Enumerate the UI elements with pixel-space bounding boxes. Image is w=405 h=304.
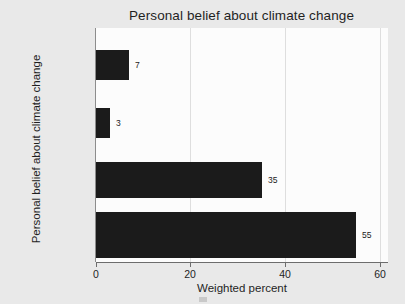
x-tick-mark-60: [380, 262, 381, 267]
bar-value-not-now: 3: [116, 119, 121, 128]
bar-dk-na: [96, 50, 129, 80]
bar-not-now: [96, 108, 110, 138]
bar-now-natural: [96, 162, 262, 198]
bar-now-human: [96, 212, 356, 258]
y-axis-title: Personal belief about climate change: [30, 29, 42, 269]
bar-value-now-natural: 35: [268, 176, 277, 185]
bar-value-dk-na: 7: [135, 61, 140, 70]
scan-artifact: [199, 297, 207, 302]
bar-value-now-human: 55: [362, 231, 371, 240]
chart-title: Personal belief about climate change: [95, 8, 388, 23]
x-tick-mark-20: [190, 262, 191, 267]
y-axis-line: [95, 28, 96, 262]
x-tick-label-60: 60: [374, 268, 386, 280]
x-tick-mark-0: [96, 262, 97, 267]
plot-area: 7 3 35 55: [96, 28, 388, 262]
x-axis-line: [96, 262, 388, 263]
bar-chart-figure: Personal belief about climate change Per…: [0, 0, 405, 304]
x-axis-label: Weighted percent: [96, 282, 388, 294]
x-tick-label-0: 0: [93, 268, 99, 280]
x-tick-mark-40: [285, 262, 286, 267]
gridline-60: [380, 28, 381, 262]
x-tick-label-20: 20: [184, 268, 196, 280]
x-tick-label-40: 40: [279, 268, 291, 280]
